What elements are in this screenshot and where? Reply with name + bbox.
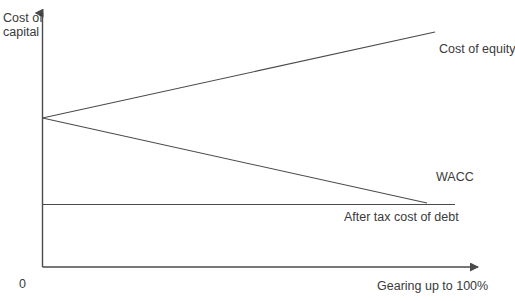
origin-label: 0 <box>19 277 26 291</box>
x-axis-title: Gearing up to 100% <box>377 279 488 293</box>
series-label-cost-of-equity: Cost of equity <box>439 42 515 56</box>
series-label-wacc: WACC <box>436 170 474 184</box>
chart-plot-area <box>0 0 515 301</box>
y-axis-title-line2: capital <box>3 25 39 39</box>
cost-of-capital-gearing-chart: Cost of capital Gearing up to 100% 0 Cos… <box>0 0 515 301</box>
series-line-cost-of-equity <box>43 32 436 118</box>
series-line-wacc <box>43 118 428 203</box>
series-label-after-tax-cost-of-debt: After tax cost of debt <box>344 210 459 224</box>
y-axis-title-line1: Cost of <box>3 11 43 25</box>
y-axis-title: Cost of capital <box>3 11 43 39</box>
